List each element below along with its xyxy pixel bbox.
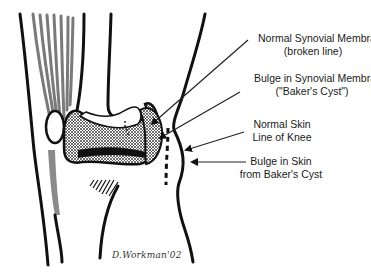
patella [46, 111, 64, 143]
muscle-strands [33, 14, 73, 118]
normal-skin-dashed [166, 128, 168, 185]
skin-bulge-line [174, 130, 183, 183]
label-normal-synovial: Normal Synovial Membrane (broken line) [258, 32, 368, 58]
label-normal-synovial-line1: Normal Synovial Membrane [258, 32, 368, 45]
arrow-normal-synovial [152, 40, 248, 124]
label-bulge-synovial-line2: ("Baker's Cyst") [254, 85, 370, 98]
label-bulge-synovial-line1: Bulge in Synovial Membrane [254, 72, 370, 85]
label-normal-synovial-line2: (broken line) [258, 45, 368, 58]
label-bulge-skin: Bulge in Skin from Baker's Cyst [236, 155, 326, 181]
arrow-bulge-synovial [160, 92, 240, 138]
label-bulge-synovial: Bulge in Synovial Membrane ("Baker's Cys… [254, 72, 370, 98]
label-bulge-skin-line1: Bulge in Skin [236, 155, 326, 168]
artist-signature: D.Workman'02 [112, 250, 182, 260]
annotation-arrows [152, 40, 248, 162]
label-normal-skin-line2: Line of Knee [246, 131, 318, 144]
arrow-normal-skin [186, 132, 244, 150]
lower-muscle-band [48, 150, 60, 215]
label-normal-skin-line1: Normal Skin [246, 118, 318, 131]
label-bulge-skin-line2: from Baker's Cyst [236, 168, 326, 181]
label-normal-skin: Normal Skin Line of Knee [246, 118, 318, 144]
